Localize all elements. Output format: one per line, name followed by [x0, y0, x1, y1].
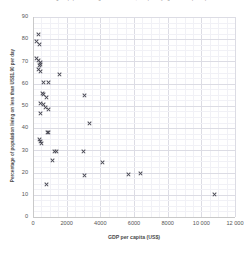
gridline-horizontal-minor — [33, 95, 235, 96]
plot-area — [33, 17, 235, 217]
gridline-horizontal-minor — [33, 167, 235, 168]
data-point-marker — [46, 107, 51, 112]
gridline-horizontal-minor — [33, 34, 235, 35]
gridline-horizontal-minor — [33, 28, 235, 29]
x-axis-tick-label: 10 000 — [186, 221, 216, 227]
gridline-horizontal-minor — [33, 23, 235, 24]
gridline-horizontal-major — [33, 195, 235, 196]
data-point-marker — [57, 72, 62, 77]
gridline-horizontal-major — [33, 39, 235, 40]
data-point-marker — [82, 173, 87, 178]
gridline-horizontal-minor — [33, 67, 235, 68]
x-axis-line — [33, 217, 235, 218]
gridline-horizontal-minor — [33, 45, 235, 46]
gridline-horizontal-minor — [33, 78, 235, 79]
data-point-marker — [81, 149, 86, 154]
gridline-horizontal-minor — [33, 206, 235, 207]
data-point-marker — [87, 121, 92, 126]
x-axis-title: GDP per capita (US$) — [33, 234, 235, 240]
data-point-marker — [46, 130, 51, 135]
scatter-chart: Percentage of population living on less … — [0, 0, 250, 254]
data-point-marker — [38, 111, 43, 116]
data-point-marker — [82, 93, 87, 98]
x-axis-tick-label: 4000 — [85, 221, 115, 227]
data-point-marker — [38, 69, 43, 74]
chart-title: Percentage of population living on less … — [0, 0, 250, 1]
gridline-horizontal-major — [33, 61, 235, 62]
y-axis-line — [33, 17, 34, 217]
gridline-horizontal-minor — [33, 161, 235, 162]
gridline-horizontal-minor — [33, 56, 235, 57]
data-point-marker — [212, 192, 217, 197]
data-point-marker — [44, 182, 49, 187]
data-point-marker — [126, 172, 131, 177]
gridline-horizontal-minor — [33, 200, 235, 201]
x-axis-tick-label: 8000 — [153, 221, 183, 227]
gridline-horizontal-major — [33, 84, 235, 85]
gridline-horizontal-major — [33, 150, 235, 151]
gridline-horizontal-minor — [33, 50, 235, 51]
gridline-horizontal-minor — [33, 184, 235, 185]
data-point-marker — [36, 32, 41, 37]
gridline-horizontal-major — [33, 106, 235, 107]
gridline-horizontal-major — [33, 173, 235, 174]
gridline-horizontal-minor — [33, 189, 235, 190]
gridline-horizontal-minor — [33, 117, 235, 118]
gridline-vertical-major — [235, 17, 236, 217]
gridline-horizontal-major — [33, 17, 235, 18]
gridline-horizontal-minor — [33, 89, 235, 90]
gridline-horizontal-minor — [33, 178, 235, 179]
data-point-marker — [54, 149, 59, 154]
gridline-horizontal-minor — [33, 111, 235, 112]
gridline-horizontal-minor — [33, 100, 235, 101]
gridline-horizontal-minor — [33, 73, 235, 74]
gridline-horizontal-minor — [33, 134, 235, 135]
data-point-marker — [138, 171, 143, 176]
gridline-horizontal-major — [33, 128, 235, 129]
data-point-marker — [37, 42, 42, 47]
data-point-marker — [100, 160, 105, 165]
data-point-marker — [39, 141, 44, 146]
data-point-marker — [46, 80, 51, 85]
data-point-marker — [44, 95, 49, 100]
y-axis-title: Percentage of population living on less … — [10, 16, 15, 216]
gridline-horizontal-minor — [33, 145, 235, 146]
gridline-horizontal-minor — [33, 123, 235, 124]
x-axis-tick-label: 6000 — [119, 221, 149, 227]
gridline-horizontal-minor — [33, 211, 235, 212]
gridline-horizontal-minor — [33, 139, 235, 140]
x-axis-tick-label: 2000 — [52, 221, 82, 227]
gridline-horizontal-minor — [33, 156, 235, 157]
x-axis-tick-label: 0 — [18, 221, 48, 227]
x-axis-tick-label: 12 000 — [220, 221, 250, 227]
data-point-marker — [50, 158, 55, 163]
